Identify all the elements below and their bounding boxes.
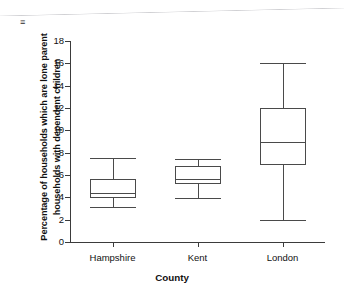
- y-axis-tick-label: 18: [24, 36, 64, 46]
- y-axis-tick-label: 4: [24, 192, 64, 202]
- x-axis-category-label: London: [243, 252, 323, 263]
- y-axis-tick: [65, 242, 70, 243]
- y-axis-tick-label: 16: [24, 58, 64, 68]
- x-axis-category-label: Hampshire: [73, 252, 153, 263]
- y-axis-tick-label: 8: [24, 148, 64, 158]
- max-cap: [260, 63, 306, 64]
- median-line: [260, 142, 306, 143]
- y-axis-tick-label: 10: [24, 125, 64, 135]
- y-axis-tick-label: 6: [24, 170, 64, 180]
- chart-root: ≡ Percentage of households which are lon…: [0, 0, 344, 297]
- box-plot-london: [70, 41, 325, 242]
- y-axis-tick-label: 0: [24, 237, 64, 247]
- y-axis-tick-label: 12: [24, 103, 64, 113]
- y-axis-tick-label: 14: [24, 81, 64, 91]
- y-axis-tick-labels: 024681012141618: [20, 41, 64, 242]
- x-axis-tick: [283, 242, 284, 247]
- x-axis-tick: [198, 242, 199, 247]
- x-axis-category-label: Kent: [158, 252, 238, 263]
- interquartile-box: [260, 108, 306, 165]
- lower-whisker-line: [283, 165, 284, 220]
- upper-whisker-line: [283, 63, 284, 108]
- x-axis-title: County: [0, 272, 344, 283]
- y-axis-tick-label: 2: [24, 215, 64, 225]
- min-cap: [260, 220, 306, 221]
- x-axis-tick: [113, 242, 114, 247]
- plot-area: [70, 41, 325, 242]
